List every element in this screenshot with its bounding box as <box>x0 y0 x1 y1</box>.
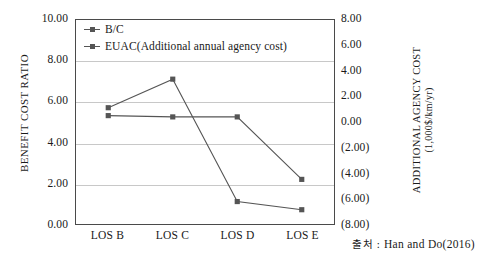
data-point-marker <box>299 177 304 182</box>
y-axis-right-ticks: 8.006.004.002.000.00(2.00)(4.00)(6.00)(8… <box>341 0 401 259</box>
data-point-marker <box>235 114 240 119</box>
chart-figure: 10.008.006.004.002.000.00 BENEFIT COST R… <box>0 0 482 259</box>
x-axis-tick-label: LOS B <box>75 229 140 241</box>
chart-legend: B/CEUAC(Additional annual agency cost) <box>84 22 316 56</box>
y-axis-right-tick-label: 6.00 <box>341 39 362 51</box>
legend-item-label: EUAC(Additional annual agency cost) <box>105 40 287 53</box>
y-axis-right-title: ADDITIONAL AGENCY COST (1,000$/km/yr) <box>411 25 435 215</box>
y-axis-right-tick-label: (2.00) <box>341 142 369 154</box>
data-point-marker <box>170 114 175 119</box>
series-line-2 <box>108 116 302 180</box>
y-axis-right-tick-label: 8.00 <box>341 13 362 25</box>
x-axis-tick-label: LOS E <box>270 229 335 241</box>
y-axis-left-tick-label: 4.00 <box>47 137 68 149</box>
source-text: Han and Do(2016) <box>384 238 475 250</box>
y-axis-right-title-line2: (1,000$/km/yr) <box>423 25 435 215</box>
y-axis-right-tick-label: (8.00) <box>341 219 369 231</box>
series-line-1 <box>108 79 302 210</box>
legend-item-label: B/C <box>105 23 124 36</box>
y-axis-right-tick-label: (4.00) <box>341 168 369 180</box>
y-axis-left-ticks: 10.008.006.004.002.000.00 <box>0 0 72 259</box>
data-point-marker <box>106 105 111 110</box>
y-axis-right-title-line1: ADDITIONAL AGENCY COST <box>411 25 423 215</box>
y-axis-left-tick-label: 10.00 <box>42 13 68 25</box>
y-axis-left-tick-label: 2.00 <box>47 178 68 190</box>
data-point-marker <box>299 207 304 212</box>
x-axis-tick-label: LOS C <box>140 229 205 241</box>
y-axis-right-tick-label: 4.00 <box>341 65 362 77</box>
x-axis-tick-label: LOS D <box>205 229 270 241</box>
y-axis-left-title: BENEFIT COST RATIO <box>18 18 30 208</box>
data-point-marker <box>106 113 111 118</box>
y-axis-right-tick-label: (6.00) <box>341 193 369 205</box>
legend-marker-icon <box>84 41 100 52</box>
x-axis-ticks: LOS BLOS CLOS DLOS E <box>75 229 335 247</box>
y-axis-right-tick-label: 2.00 <box>341 90 362 102</box>
legend-marker-icon <box>84 24 100 35</box>
source-separator: : <box>373 238 384 250</box>
source-note: 출처 : Han and Do(2016) <box>352 236 475 251</box>
legend-item[interactable]: EUAC(Additional annual agency cost) <box>84 39 316 54</box>
y-axis-left-tick-label: 8.00 <box>47 54 68 66</box>
data-point-marker <box>235 199 240 204</box>
source-label: 출처 <box>352 238 373 250</box>
data-point-marker <box>170 77 175 82</box>
y-axis-left-tick-label: 6.00 <box>47 95 68 107</box>
y-axis-left-tick-label: 0.00 <box>47 219 68 231</box>
legend-item[interactable]: B/C <box>84 22 316 37</box>
y-axis-right-tick-label: 0.00 <box>341 116 362 128</box>
